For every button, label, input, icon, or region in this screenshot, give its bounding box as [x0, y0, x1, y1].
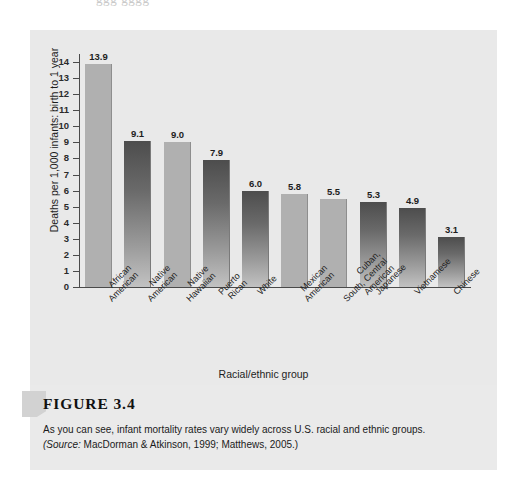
caption-description: As you can see, infant mortality rates v… [43, 423, 483, 438]
y-axis-tick [73, 110, 80, 111]
y-axis-title: Deaths per 1,000 infants: birth to 1 yea… [48, 20, 60, 260]
figure-panel: 14131211109876543210 Deaths per 1,000 in… [30, 30, 497, 385]
y-axis-tick [73, 207, 80, 208]
x-axis-title: Racial/ethnic group [30, 368, 497, 380]
y-axis-tick [73, 78, 80, 79]
bar-value-label: 6.0 [249, 178, 262, 189]
y-axis-tick [73, 94, 80, 95]
y-axis-tick [73, 271, 80, 272]
caption-source: (Source: MacDorman & Atkinson, 1999; Mat… [43, 438, 483, 453]
bar-value-label: 5.5 [327, 186, 340, 197]
y-axis-tick [73, 255, 80, 256]
bar: 5.8 [281, 194, 308, 287]
y-axis-tick-label: 0 [47, 282, 69, 292]
bar: 6.0 [242, 191, 269, 287]
y-axis-tick [73, 175, 80, 176]
y-axis-tick [73, 191, 80, 192]
bar-value-label: 4.9 [406, 195, 419, 206]
bar-value-label: 5.8 [288, 181, 301, 192]
bar: 4.9 [399, 208, 426, 287]
y-axis-tick-label: 1 [47, 266, 69, 276]
bar-value-label: 3.1 [445, 224, 458, 235]
caption-source-prefix: (Source: [43, 439, 81, 450]
y-axis-tick [73, 158, 80, 159]
bar-value-label: 9.1 [131, 128, 144, 139]
figure-label: FIGURE 3.4 [43, 395, 136, 413]
y-axis-tick [73, 126, 80, 127]
figure-caption-block: FIGURE 3.4 As you can see, infant mortal… [30, 385, 497, 470]
bar-value-label: 9.0 [171, 129, 184, 140]
page-bleed-text: ggg gggg [96, 0, 150, 7]
y-axis-tick [73, 62, 80, 63]
y-axis-tick [73, 239, 80, 240]
y-axis-tick [73, 223, 80, 224]
bar-value-label: 7.9 [210, 147, 223, 158]
y-axis-tick [73, 142, 80, 143]
figure-caption-text: As you can see, infant mortality rates v… [43, 423, 483, 452]
bar: 13.9 [85, 64, 112, 287]
bar-value-label: 13.9 [89, 51, 108, 62]
y-axis-tick [73, 287, 80, 288]
bar-value-label: 5.3 [367, 189, 380, 200]
caption-source-rest: MacDorman & Atkinson, 1999; Matthews, 20… [81, 439, 298, 450]
bar-chart-plot: 14131211109876543210 Deaths per 1,000 in… [30, 30, 497, 385]
y-axis-line [79, 54, 80, 288]
